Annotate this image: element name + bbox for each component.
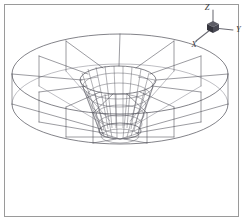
top-spoke-n	[119, 34, 120, 66]
wireframe-canvas: Z Y X	[0, 0, 243, 221]
orientation-triad: Z Y X	[190, 2, 242, 49]
x-axis-line	[196, 30, 210, 41]
bore-stub-2	[138, 77, 155, 80]
figure-container: Z Y X	[0, 0, 243, 221]
top-spoke-ese	[152, 86, 201, 92]
top-spoke-ene	[150, 56, 201, 74]
funnel-meridian-13	[83, 87, 101, 135]
mesh-svg: Z Y X	[0, 0, 243, 221]
outer-annulus-group	[12, 34, 228, 144]
y-axis-label: Y	[236, 24, 242, 34]
bot-spoke-w	[12, 104, 101, 129]
outer-bottom-front-arc	[12, 104, 228, 144]
outer-bottom-back-arc	[12, 64, 228, 104]
bot-spoke-wsw	[39, 122, 104, 133]
funnel-ring-5	[98, 115, 142, 133]
top-spoke-nnw	[66, 41, 103, 68]
funnel-meridian-8	[127, 67, 132, 128]
bot-spoke-ese	[136, 122, 201, 133]
top-spoke-nne	[136, 41, 174, 68]
funnel-meridian-6	[114, 66, 116, 128]
bore-stub-1	[80, 77, 98, 80]
x-axis-label: X	[190, 39, 197, 49]
z-axis-label: Z	[205, 2, 210, 12]
bot-spoke-e	[139, 104, 228, 129]
top-spoke-wnw	[39, 56, 88, 74]
funnel-base-ellipse	[101, 129, 139, 143]
funnel-ring-1	[83, 73, 153, 99]
